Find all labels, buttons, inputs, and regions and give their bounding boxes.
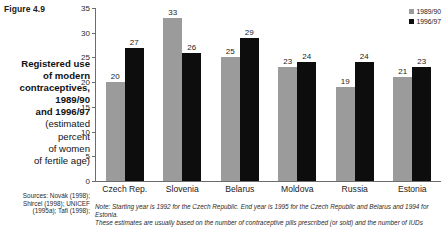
y-axis-tick-label: 35 [69,4,90,13]
bar-value-label: 23 [417,57,426,66]
bar-wrapper: 33 [163,18,182,181]
bar-value-label: 33 [168,8,177,17]
x-axis-label: Czech Rep. [102,184,147,194]
bar-wrapper: 21 [393,77,412,181]
y-axis-tick-label: 0 [69,177,90,186]
bar-value-label: 26 [187,43,196,52]
bar-slovenia-1996-97 [182,53,201,182]
bar-wrapper: 27 [125,48,144,181]
bar-wrapper: 24 [355,62,374,181]
bar-value-label: 24 [360,52,369,61]
bar-wrapper: 23 [412,67,431,181]
bar-wrapper: 24 [297,62,316,181]
bar-belarus-1996-97 [240,38,259,181]
figure-sources: Sources: Novák (1998); Shircel (1998); U… [0,192,90,215]
bar-value-label: 24 [302,52,311,61]
y-axis-tick-label: 5 [69,152,90,161]
y-axis-tick-label: 10 [69,127,90,136]
y-axis-tick-mark [92,181,95,182]
bar-value-label: 20 [111,72,120,81]
y-axis-tick-mark [92,82,95,83]
y-axis-tick-mark [92,156,95,157]
sources-line: (1995a); Tafi (1998); [0,207,90,215]
y-axis-tick-label: 15 [69,102,90,111]
x-axis-line [95,181,441,182]
y-axis-tick-mark [92,132,95,133]
y-axis-tick-mark [92,57,95,58]
bar-value-label: 21 [398,67,407,76]
bar-value-label: 23 [283,57,292,66]
bar-estonia-1989-90 [393,77,412,181]
y-axis-tick-label: 25 [69,53,90,62]
bar-wrapper: 19 [336,87,355,181]
bar-group: 3326 [154,8,212,181]
y-axis-tick-mark [92,107,95,108]
bar-wrapper: 20 [106,82,125,181]
bar-russia-1996-97 [355,62,374,181]
note-line: Note: Starting year is 1992 for the Czec… [95,203,443,219]
bar-group: 2529 [211,8,269,181]
sources-line: Sources: Novák (1998); [0,192,90,200]
bar-moldova-1989-90 [278,67,297,181]
bar-moldova-1996-97 [297,62,316,181]
bar-slovenia-1989-90 [163,18,182,181]
bar-wrapper: 25 [221,57,240,181]
bar-value-label: 29 [245,28,254,37]
figure-caption: Registered use of modern contraceptives,… [0,58,90,167]
figure-container: Figure 4.9 Registered use of modern cont… [0,0,445,227]
bar-czech-rep--1989-90 [106,82,125,181]
bar-groups: 202733262529232419242123 [96,8,441,181]
x-axis-label: Estonia [398,184,427,194]
note-line: These estimates are usually based on the… [95,219,443,227]
bar-wrapper: 29 [240,38,259,181]
bar-group: 2027 [96,8,154,181]
bar-russia-1989-90 [336,87,355,181]
bar-group: 2324 [269,8,327,181]
bar-group: 2123 [384,8,442,181]
bar-wrapper: 23 [278,67,297,181]
bar-value-label: 19 [341,77,350,86]
x-axis-label: Belarus [225,184,254,194]
bar-wrapper: 26 [182,53,201,182]
x-axis-label: Russia [342,184,368,194]
bar-belarus-1989-90 [221,57,240,181]
bar-estonia-1996-97 [412,67,431,181]
x-axis-label: Slovenia [166,184,199,194]
bar-value-label: 25 [226,47,235,56]
y-axis-tick-mark [92,8,95,9]
plot-area: 05101520253035 202733262529232419242123 [95,8,441,182]
bar-czech-rep--1996-97 [125,48,144,181]
bar-value-label: 27 [130,38,139,47]
y-axis-tick-label: 30 [69,28,90,37]
y-axis-tick-mark [92,33,95,34]
bar-group: 1924 [326,8,384,181]
sources-line: Shircel (1998); UNICEF [0,200,90,208]
figure-number: Figure 4.9 [4,4,45,14]
x-axis-label: Moldova [281,184,313,194]
figure-note: Note: Starting year is 1992 for the Czec… [95,203,443,227]
y-axis-tick-label: 20 [69,78,90,87]
